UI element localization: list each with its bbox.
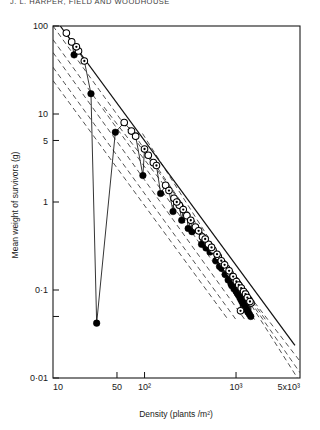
- x-tick-label: 10²: [138, 382, 151, 392]
- data-point-filled-circle: [170, 208, 177, 215]
- y-tick-label: 10: [38, 109, 48, 119]
- upper-band-3: [53, 52, 245, 319]
- data-point-dotted-circle: [166, 187, 173, 194]
- fitted-regression-line: [60, 26, 295, 345]
- data-point-dotted-circle: [81, 58, 88, 65]
- lower-band-1: [53, 67, 236, 319]
- data-point-dotted-circle: [237, 308, 244, 315]
- fitted-regression-line: [60, 26, 295, 345]
- data-point-dotted-circle: [187, 217, 194, 224]
- data-point-open-circle: [145, 152, 152, 159]
- x-axis-ticks: 105010²10³5x10³: [53, 372, 300, 392]
- data-point-filled-circle: [248, 313, 255, 320]
- data-point-dotted-circle: [180, 206, 187, 213]
- data-point-dotted-circle: [208, 244, 215, 251]
- x-tick-label: 50: [112, 382, 122, 392]
- data-point-dotted-circle: [141, 146, 148, 153]
- y-tick-label: 0·01: [30, 373, 48, 383]
- data-trace-line: [66, 33, 251, 323]
- y-tick-label: 5: [43, 136, 48, 146]
- x-tick-label: 10³: [230, 382, 243, 392]
- data-point-open-circle: [63, 30, 70, 37]
- data-point-filled-circle: [93, 320, 100, 327]
- data-point-filled-circle: [140, 172, 147, 179]
- data-point-dotted-circle: [202, 236, 209, 243]
- data-point-dotted-circle: [247, 298, 254, 305]
- y-tick-label: 1: [43, 197, 48, 207]
- data-point-dotted-circle: [221, 262, 228, 269]
- data-point-dotted-circle: [214, 251, 221, 258]
- data-point-filled-circle: [112, 129, 119, 136]
- data-point-dotted-circle: [226, 268, 233, 275]
- lower-band-2: [53, 81, 228, 320]
- data-point-dotted-circle: [73, 44, 80, 51]
- y-axis-label: Mean weight of survivors (g): [10, 151, 20, 258]
- x-tick-label: 10: [53, 382, 63, 392]
- data-point-filled-circle: [88, 90, 95, 97]
- data-point-open-circle: [121, 119, 128, 126]
- y-tick-label: 0·1: [35, 285, 48, 295]
- data-trace-path: [66, 33, 251, 323]
- data-point-dotted-circle: [195, 228, 202, 235]
- scatter-plot: 10010510·10·01 105010²10³5x10³ Density (…: [0, 0, 320, 430]
- y-tick-label: 100: [33, 21, 48, 31]
- figure-root: J. L. HARPER, FIELD AND WOODHOUSE 100105…: [0, 0, 320, 430]
- data-point-open-circle: [132, 133, 139, 140]
- data-point-dotted-circle: [153, 162, 160, 169]
- data-point-filled-circle: [157, 190, 164, 197]
- y-axis-ticks: 10010510·10·01: [30, 21, 59, 383]
- data-point-dotted-circle: [173, 199, 180, 206]
- x-tick-label: 5x10³: [277, 382, 300, 392]
- x-axis-label: Density (plants /m²): [139, 409, 213, 419]
